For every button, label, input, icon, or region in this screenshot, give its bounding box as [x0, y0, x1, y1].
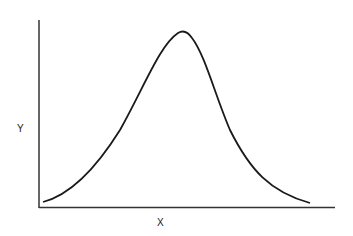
x-axis-label: X [157, 218, 164, 228]
y-axis-label: Y [17, 124, 24, 134]
bell-curve [43, 32, 310, 203]
chart-canvas [0, 0, 353, 236]
